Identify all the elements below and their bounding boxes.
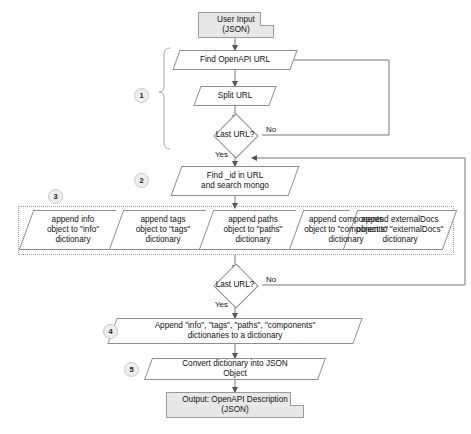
- edge-label-no-2: No: [266, 275, 276, 284]
- step-badge-4-label: 4: [108, 327, 112, 336]
- step-badge-2: 2: [134, 173, 149, 188]
- node-last-url-decision-1[interactable]: Last URL?: [205, 120, 265, 150]
- node-append-tags[interactable]: append tags object to "tags" dictionary: [116, 210, 210, 250]
- node-convert-to-json-label: Convert dictionary into JSON Object: [178, 359, 292, 378]
- node-last-url-decision-2[interactable]: Last URL?: [205, 270, 265, 300]
- edge-label-no-1: No: [266, 125, 276, 134]
- flowchart-canvas: User Input (JSON) Find OpenAPI URL Split…: [0, 0, 471, 434]
- node-append-paths-label: append paths object to "paths" dictionar…: [219, 215, 286, 244]
- document-fold-icon: [290, 392, 304, 406]
- node-find-id-search-mongo[interactable]: Find _id in URL and search mongo: [176, 166, 294, 196]
- node-append-info[interactable]: append info object to "info" dictionary: [26, 210, 120, 250]
- edge-label-yes-1: Yes: [215, 150, 228, 159]
- node-split-url-label: Split URL: [214, 91, 257, 101]
- node-append-info-label: append info object to "info" dictionary: [43, 215, 103, 244]
- node-append-externaldocs[interactable]: append externalDocs object to "externalD…: [350, 210, 450, 250]
- step-badge-3: 3: [48, 189, 63, 204]
- node-find-id-search-mongo-label: Find _id in URL and search mongo: [197, 171, 273, 190]
- node-append-paths[interactable]: append paths object to "paths" dictionar…: [206, 210, 300, 250]
- node-last-url-decision-2-label: Last URL?: [216, 280, 255, 290]
- step-badge-1: 1: [134, 88, 149, 103]
- node-last-url-decision-1-label: Last URL?: [216, 130, 255, 140]
- step-badge-3-label: 3: [53, 192, 57, 201]
- step-badge-5-label: 5: [129, 365, 133, 374]
- step-badge-4: 4: [103, 324, 118, 339]
- node-append-externaldocs-label: append externalDocs object to "externalD…: [353, 215, 448, 244]
- node-append-all-dictionaries-label: Append "info", "tags", "paths", "compone…: [151, 321, 320, 340]
- node-convert-to-json[interactable]: Convert dictionary into JSON Object: [148, 358, 322, 380]
- node-append-all-dictionaries[interactable]: Append "info", "tags", "paths", "compone…: [112, 318, 358, 344]
- step-badge-5: 5: [124, 362, 139, 377]
- edge-label-yes-2: Yes: [215, 300, 228, 309]
- node-user-input-label: User Input (JSON): [217, 15, 255, 34]
- node-find-openapi-url[interactable]: Find OpenAPI URL: [176, 50, 294, 70]
- step-badge-1-label: 1: [139, 91, 143, 100]
- node-output-openapi-description-label: Output: OpenAPI Description (JSON): [182, 395, 288, 414]
- node-output-openapi-description[interactable]: Output: OpenAPI Description (JSON): [166, 392, 304, 418]
- node-user-input[interactable]: User Input (JSON): [198, 12, 274, 38]
- node-find-openapi-url-label: Find OpenAPI URL: [196, 55, 274, 65]
- step-badge-2-label: 2: [139, 176, 143, 185]
- document-fold-icon: [260, 12, 274, 26]
- node-split-url[interactable]: Split URL: [197, 86, 273, 106]
- node-append-tags-label: append tags object to "tags" dictionary: [132, 215, 195, 244]
